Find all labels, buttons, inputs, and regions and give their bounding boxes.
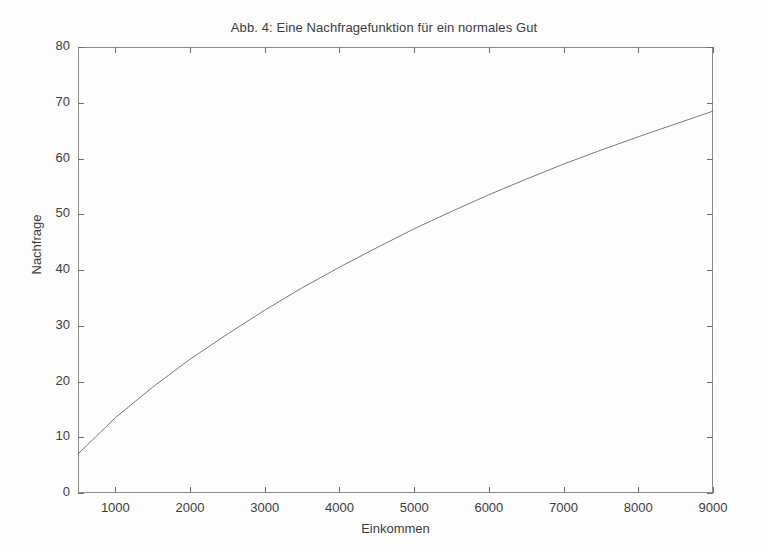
y-tick-40 <box>78 270 84 271</box>
x-tick-7000 <box>564 47 565 53</box>
x-tick-4000 <box>339 47 340 53</box>
y-tick-0 <box>78 493 84 494</box>
x-tick-label-2000: 2000 <box>176 500 205 515</box>
y-tick-70 <box>707 103 713 104</box>
y-tick-20 <box>707 382 713 383</box>
x-tick-8000 <box>638 47 639 53</box>
x-tick-3000 <box>265 47 266 53</box>
y-tick-10 <box>78 437 84 438</box>
x-tick-label-7000: 7000 <box>549 500 578 515</box>
y-tick-40 <box>707 270 713 271</box>
x-tick-label-1000: 1000 <box>101 500 130 515</box>
x-tick-2000 <box>190 487 191 493</box>
y-tick-10 <box>707 437 713 438</box>
y-tick-50 <box>707 214 713 215</box>
y-tick-20 <box>78 382 84 383</box>
y-tick-60 <box>78 159 84 160</box>
chart-title: Abb. 4: Eine Nachfragefunktion für ein n… <box>0 20 768 35</box>
x-tick-4000 <box>339 487 340 493</box>
y-tick-0 <box>707 493 713 494</box>
x-tick-5000 <box>414 47 415 53</box>
x-tick-5000 <box>414 487 415 493</box>
x-tick-3000 <box>265 487 266 493</box>
figure-canvas: Abb. 4: Eine Nachfragefunktion für ein n… <box>0 0 768 551</box>
x-tick-9000 <box>713 47 714 53</box>
y-tick-50 <box>78 214 84 215</box>
x-tick-label-3000: 3000 <box>250 500 279 515</box>
y-tick-60 <box>707 159 713 160</box>
x-tick-7000 <box>564 487 565 493</box>
y-tick-80 <box>78 47 84 48</box>
x-tick-label-6000: 6000 <box>474 500 503 515</box>
x-tick-6000 <box>489 47 490 53</box>
y-tick-70 <box>78 103 84 104</box>
x-tick-label-8000: 8000 <box>624 500 653 515</box>
y-tick-30 <box>707 326 713 327</box>
y-axis-label: Nachfrage <box>29 195 44 295</box>
x-tick-8000 <box>638 487 639 493</box>
x-tick-label-5000: 5000 <box>400 500 429 515</box>
y-tick-80 <box>707 47 713 48</box>
x-tick-6000 <box>489 487 490 493</box>
x-tick-2000 <box>190 47 191 53</box>
y-tick-30 <box>78 326 84 327</box>
demand-curve <box>78 47 713 493</box>
x-tick-label-9000: 9000 <box>699 500 728 515</box>
x-tick-1000 <box>115 487 116 493</box>
x-tick-1000 <box>115 47 116 53</box>
plot-area <box>78 47 713 493</box>
x-tick-9000 <box>713 487 714 493</box>
x-axis-label: Einkommen <box>78 521 713 536</box>
x-tick-label-4000: 4000 <box>325 500 354 515</box>
